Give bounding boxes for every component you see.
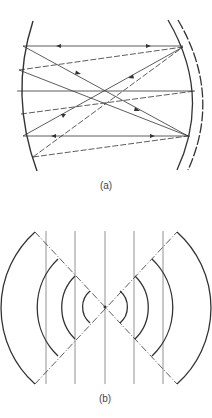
focal-point <box>104 306 107 309</box>
wavefront-arc-right-1 <box>120 291 127 323</box>
wavefront-arc-left-1 <box>83 291 90 323</box>
arrow-icon <box>61 114 66 118</box>
left-mirror <box>22 21 37 171</box>
wavefront-arc-right-4 <box>177 232 211 384</box>
arrow-icon <box>146 44 151 48</box>
diagram-canvas <box>0 0 212 418</box>
wavefront-arc-right-2 <box>135 276 148 339</box>
arrow-icon <box>56 44 61 48</box>
wavefront-arc-left-4 <box>1 232 35 384</box>
panel-b-label: (b) <box>85 393 125 404</box>
right-mirror-outer <box>178 20 203 170</box>
ray-diag-2 <box>19 70 188 136</box>
arrow-icon <box>51 134 56 138</box>
panel-a-label: (a) <box>86 180 126 191</box>
wavefront-arc-right-3 <box>152 259 173 356</box>
wavefront-arc-left-2 <box>62 276 75 339</box>
panel-b <box>1 231 211 384</box>
arrow-icon <box>128 75 134 79</box>
panel-a <box>17 20 203 171</box>
arrow-icon <box>150 134 155 138</box>
arrow-icon <box>75 71 81 75</box>
ray-diag-3 <box>23 47 183 136</box>
ray-dashed-2 <box>21 91 195 114</box>
ray-dashed-1 <box>19 47 183 70</box>
wavefront-arc-left-3 <box>37 259 58 356</box>
ray-dashed-3 <box>33 136 188 157</box>
